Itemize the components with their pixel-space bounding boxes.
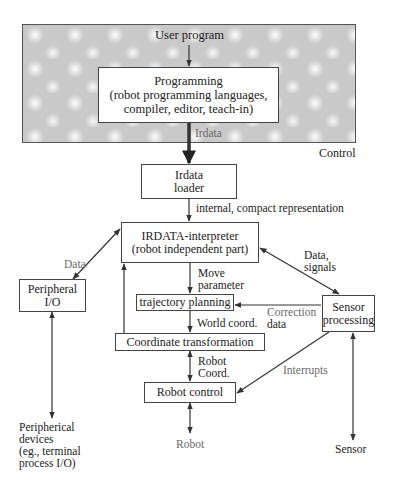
sensor-processing-line2: processing xyxy=(323,314,374,327)
peripheral-io-line1: Peripheral xyxy=(28,283,77,296)
peripheral-devices-line1: Peripherical xyxy=(19,421,81,433)
programming-box: Programming (robot programming languages… xyxy=(98,67,279,123)
data-signals-label-2: signals xyxy=(304,261,336,274)
world-coord-label: World coord. xyxy=(197,317,257,330)
programming-detail-1: (robot programming languages, xyxy=(110,88,268,102)
robot-control-label: Robot control xyxy=(157,386,223,399)
user-program-label: User program xyxy=(155,29,224,42)
irdata-label: Irdata xyxy=(195,127,222,140)
trajectory-planning-label: trajectory planning xyxy=(140,296,231,309)
interpreter-subtitle: (robot independent part) xyxy=(132,243,249,256)
peripheral-devices-line4: process I/O) xyxy=(19,457,81,469)
internal-representation-label: internal, compact representation xyxy=(196,202,344,215)
programming-title: Programming xyxy=(154,74,223,88)
robot-coord-label-2: Coord. xyxy=(198,367,230,380)
sensor-label: Sensor xyxy=(335,443,366,456)
sensor-processing-line1: Sensor xyxy=(332,301,365,314)
data-label: Data xyxy=(64,258,86,271)
interrupts-label: Interrupts xyxy=(283,364,328,377)
programming-detail-2: compiler, editor, teach-in) xyxy=(124,102,254,116)
sensor-processing-box: Sensor processing xyxy=(322,295,375,332)
arrow-data-peripheral xyxy=(73,229,120,279)
irdata-loader-line2: loader xyxy=(174,182,204,195)
interpreter-title: IRDATA-interpreter xyxy=(141,230,238,243)
interpreter-box: IRDATA-interpreter (robot independent pa… xyxy=(121,222,259,263)
peripheral-io-box: Peripheral I/O xyxy=(19,279,86,312)
peripheral-devices-label: Peripherical devices (eg., terminal proc… xyxy=(19,421,81,469)
robot-control-box: Robot control xyxy=(144,382,236,403)
irdata-loader-line1: Irdata xyxy=(175,169,203,182)
peripheral-io-line2: I/O xyxy=(45,296,61,309)
irdata-loader-box: Irdata loader xyxy=(141,164,237,199)
correction-label-2: data xyxy=(267,318,286,331)
trajectory-planning-box: trajectory planning xyxy=(136,294,234,311)
coordinate-transformation-box: Coordinate transformation xyxy=(115,333,265,351)
peripheral-devices-line3: (eg., terminal xyxy=(19,445,81,457)
coordinate-transformation-label: Coordinate transformation xyxy=(127,336,254,349)
robot-label: Robot xyxy=(176,438,204,451)
control-label: Control xyxy=(319,147,356,160)
move-parameter-label-2: parameter xyxy=(198,279,244,292)
peripheral-devices-line2: devices xyxy=(19,433,81,445)
